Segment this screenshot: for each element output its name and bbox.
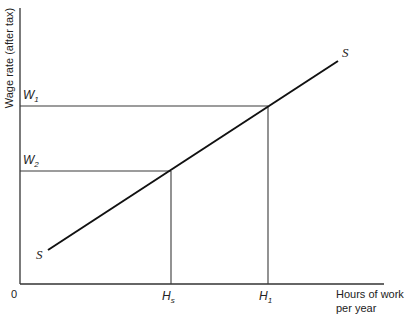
y-axis-title: Wage rate (after tax) <box>3 8 15 108</box>
supply-label-start: S <box>36 247 43 262</box>
hs-label: Hs <box>162 289 175 305</box>
supply-label-end: S <box>342 45 349 60</box>
supply-curve <box>48 61 338 250</box>
origin-label: 0 <box>11 288 17 300</box>
w1-label: W1 <box>23 88 39 104</box>
h1-label: H1 <box>259 289 272 305</box>
x-axis-title-line2: per year <box>336 302 377 314</box>
w2-label: W2 <box>23 153 39 169</box>
labour-supply-diagram: S S Wage rate (after tax) W1 W2 0 Hs H1 … <box>0 0 412 316</box>
x-axis-title-line1: Hours of work <box>336 288 404 300</box>
